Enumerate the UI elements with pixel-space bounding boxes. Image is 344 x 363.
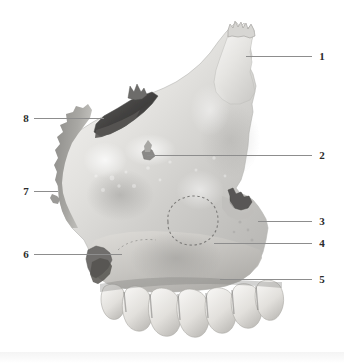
tooth-3 [148, 288, 181, 336]
label-4: 4 [316, 238, 328, 249]
anatomical-figure: 1 2 3 4 5 6 7 8 [0, 0, 344, 363]
surface-highlight-1 [83, 142, 127, 178]
frontal-process-crest [228, 21, 255, 38]
leader-line-6 [34, 254, 122, 255]
label-8: 8 [20, 113, 32, 124]
label-1: 1 [316, 51, 328, 62]
maxilla-bone-illustration [0, 0, 344, 363]
surface-highlight-4 [190, 84, 230, 136]
leader-line-8 [34, 118, 104, 119]
bone-body-group [50, 21, 268, 292]
label-7: 7 [20, 186, 32, 197]
leader-line-4 [214, 243, 312, 244]
label-5: 5 [316, 274, 328, 285]
leader-line-5 [220, 279, 312, 280]
surface-highlight-3 [176, 170, 224, 210]
bottom-edge-band [0, 352, 344, 363]
label-6: 6 [20, 249, 32, 260]
label-3: 3 [316, 216, 328, 227]
tooth-4 [177, 289, 210, 337]
leader-line-7 [34, 191, 58, 192]
leader-line-3 [258, 221, 312, 222]
label-2: 2 [316, 150, 328, 161]
nasal-margin-spur [50, 194, 60, 204]
leader-line-2 [147, 155, 312, 156]
leader-line-1 [246, 56, 312, 57]
